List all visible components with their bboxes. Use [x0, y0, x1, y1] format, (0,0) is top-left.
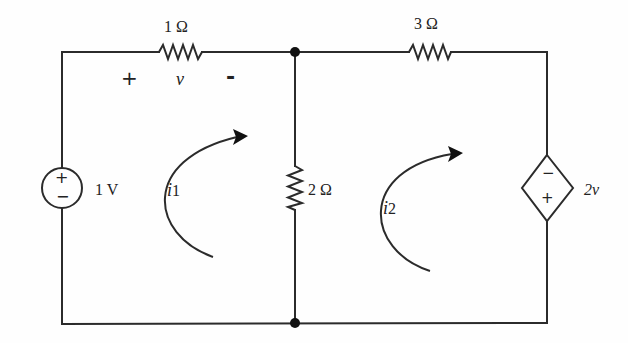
node-top — [290, 47, 300, 57]
dep-source-plus-sign: + — [541, 191, 554, 206]
label-dependent-source: 2v — [584, 182, 599, 198]
resistor-2ohm-icon — [288, 166, 302, 210]
v-voltage-label: v — [176, 70, 184, 88]
label-i1: i1 — [167, 181, 180, 199]
circuit-schematic — [0, 0, 628, 343]
resistor-3ohm-icon — [409, 45, 451, 59]
label-r2: 2 Ω — [308, 182, 332, 198]
source-plus-sign: + — [55, 170, 68, 186]
v-plus-sign: + — [121, 68, 138, 88]
wire-bottom — [62, 208, 547, 324]
circuit-diagram: 1 Ω 3 Ω 2 Ω 1 V 2v + v - + − − + i1 i2 — [0, 0, 628, 343]
source-minus-sign: − — [56, 189, 69, 205]
label-voltage-source: 1 V — [95, 182, 118, 198]
label-i1-subscript: 1 — [172, 182, 180, 199]
label-r1: 1 Ω — [164, 19, 188, 35]
v-minus-sign: - — [226, 66, 235, 88]
dep-source-minus-sign: − — [542, 166, 555, 181]
resistor-1ohm-icon — [159, 45, 202, 59]
label-r3: 3 Ω — [414, 16, 438, 32]
label-i2: i2 — [383, 199, 396, 217]
wire-top-right — [451, 52, 547, 155]
wire-left-top — [62, 52, 159, 168]
label-i2-subscript: 2 — [388, 200, 396, 217]
node-bottom — [290, 318, 300, 328]
wires — [62, 52, 547, 324]
